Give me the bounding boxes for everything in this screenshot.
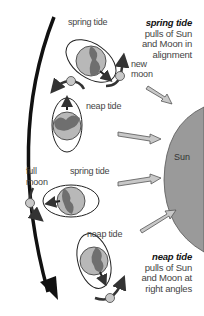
earth-neap-upper <box>52 98 82 152</box>
caption-spring-line3: alignment <box>112 50 192 61</box>
label-full-moon-1: full <box>26 166 37 176</box>
label-new-moon-2: moon <box>131 69 153 79</box>
label-full-moon-2: moon <box>26 177 48 187</box>
caption-spring-tide: spring tide pulls of Sun and Moon in ali… <box>112 18 192 60</box>
caption-spring-line2: and Moon in <box>112 39 192 50</box>
caption-neap-line3: right angles <box>112 284 192 295</box>
caption-neap-tide: neap tide pulls of Sun and Moon at right… <box>112 252 192 294</box>
sun <box>164 107 204 252</box>
label-spring-tide-lower: spring tide <box>70 166 109 176</box>
label-spring-tide-top: spring tide <box>68 17 107 27</box>
moon-quarter-upper <box>55 77 84 90</box>
tide-diagram: spring tide new moon neap tide full moon… <box>0 0 204 316</box>
label-new-moon-1: new <box>131 59 147 69</box>
earth-neap-bottom <box>71 230 116 292</box>
caption-spring-title: spring tide <box>112 18 192 29</box>
label-neap-tide-bottom: neap tide <box>87 229 122 239</box>
caption-neap-line2: and Moon at <box>112 273 192 284</box>
earth-spring-lower <box>43 185 99 217</box>
orbit-arrow <box>28 17 58 300</box>
caption-neap-title: neap tide <box>112 252 192 263</box>
label-neap-tide-upper: neap tide <box>86 101 121 111</box>
label-sun: Sun <box>174 152 190 162</box>
